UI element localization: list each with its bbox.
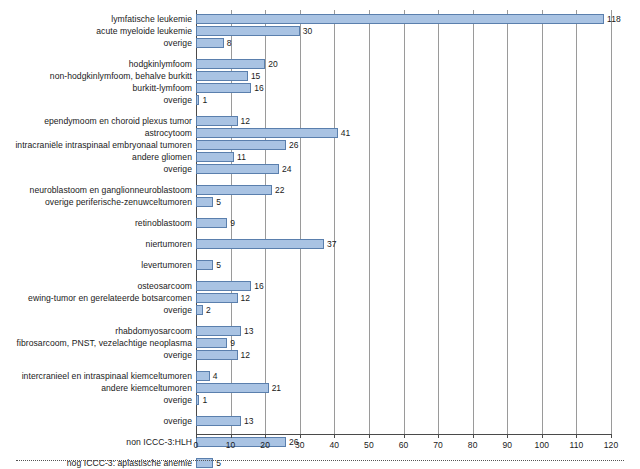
bar-category-label: overige xyxy=(163,95,192,105)
x-tick-20 xyxy=(265,434,266,438)
x-tick-120 xyxy=(611,434,612,438)
x-tick-label-90: 90 xyxy=(502,440,512,450)
bar[interactable] xyxy=(196,164,279,174)
x-tick-90 xyxy=(507,434,508,438)
bar-row[interactable]: overige2 xyxy=(196,305,611,315)
bar-row[interactable]: osteosarcoom16 xyxy=(196,281,611,291)
bar[interactable] xyxy=(196,26,300,36)
bar[interactable] xyxy=(196,305,203,315)
bar-row[interactable]: overige12 xyxy=(196,350,611,360)
bar[interactable] xyxy=(196,416,241,426)
bar[interactable] xyxy=(196,371,210,381)
bar-category-label: intercranieel en intraspinaal kiemceltum… xyxy=(22,371,192,381)
bar-value-label: 21 xyxy=(272,383,281,393)
bar-row[interactable]: overige periferische-zenuwceltumoren5 xyxy=(196,197,611,207)
bar-row[interactable]: overige24 xyxy=(196,164,611,174)
bar-row[interactable]: ependymoom en choroid plexus tumor12 xyxy=(196,116,611,126)
bar-category-label: neuroblastoom en ganglionneuroblastoom xyxy=(30,185,192,195)
bar-row[interactable]: lymfatische leukemie118 xyxy=(196,14,611,24)
bar-category-label: overige xyxy=(163,395,192,405)
bar[interactable] xyxy=(196,281,251,291)
bar-category-label: overige xyxy=(163,164,192,174)
bar-row[interactable]: retinoblastoom9 xyxy=(196,218,611,228)
bar-row[interactable]: burkitt-lymfoom16 xyxy=(196,83,611,93)
bar[interactable] xyxy=(196,83,251,93)
bar-row[interactable]: intracraniële intraspinaal embryonaal tu… xyxy=(196,140,611,150)
bar[interactable] xyxy=(196,350,238,360)
bar-value-label: 12 xyxy=(241,350,250,360)
x-tick-label-60: 60 xyxy=(399,440,409,450)
bar-value-label: 24 xyxy=(282,164,291,174)
bar-row[interactable]: acute myeloide leukemie30 xyxy=(196,26,611,36)
bar-category-label: acute myeloide leukemie xyxy=(96,26,192,36)
x-tick-label-10: 10 xyxy=(226,440,236,450)
x-tick-50 xyxy=(369,434,370,438)
bar-row[interactable]: overige13 xyxy=(196,416,611,426)
bar-value-label: 16 xyxy=(254,83,263,93)
bar[interactable] xyxy=(196,38,224,48)
bar[interactable] xyxy=(196,437,286,447)
bar-value-label: 1 xyxy=(202,395,207,405)
bar[interactable] xyxy=(196,260,213,270)
bar-row[interactable]: overige8 xyxy=(196,38,611,48)
bar-row[interactable]: fibrosarcoom, PNST, vezelachtige neoplas… xyxy=(196,338,611,348)
bar-category-label: andere gliomen xyxy=(132,152,192,162)
bar[interactable] xyxy=(196,116,238,126)
x-tick-label-120: 120 xyxy=(604,440,618,450)
bar-category-label: intracraniële intraspinaal embryonaal tu… xyxy=(15,140,192,150)
bar[interactable] xyxy=(196,326,241,336)
bar-category-label: overige periferische-zenuwceltumoren xyxy=(45,197,192,207)
x-tick-label-40: 40 xyxy=(330,440,340,450)
bar-value-label: 15 xyxy=(251,71,260,81)
bar-category-label: ewing-tumor en gerelateerde botsarcomen xyxy=(28,293,192,303)
bar[interactable] xyxy=(196,95,199,105)
bar-category-label: non-hodgkinlymfoom, behalve burkitt xyxy=(50,71,192,81)
bar[interactable] xyxy=(196,185,272,195)
bar-value-label: 13 xyxy=(244,416,253,426)
bar-category-label: niertumoren xyxy=(146,239,192,249)
bar-row[interactable]: andere gliomen11 xyxy=(196,152,611,162)
bar-row[interactable]: levertumoren5 xyxy=(196,260,611,270)
bar-row[interactable]: overige1 xyxy=(196,395,611,405)
bar-value-label: 118 xyxy=(607,14,621,24)
gridline-120 xyxy=(611,10,612,434)
chart-page: lymfatische leukemie118acute myeloide le… xyxy=(0,0,640,469)
bar-category-label: overige xyxy=(163,350,192,360)
bar-row[interactable]: overige1 xyxy=(196,95,611,105)
bar-category-label: astrocytoom xyxy=(145,128,192,138)
bar[interactable] xyxy=(196,239,324,249)
bar-row[interactable]: intercranieel en intraspinaal kiemceltum… xyxy=(196,371,611,381)
bar-row[interactable]: hodgkinlymfoom20 xyxy=(196,59,611,69)
x-tick-label-70: 70 xyxy=(433,440,443,450)
x-tick-label-110: 110 xyxy=(569,440,583,450)
bar[interactable] xyxy=(196,128,338,138)
bar-value-label: 30 xyxy=(303,26,312,36)
bar[interactable] xyxy=(196,152,234,162)
bar[interactable] xyxy=(196,383,269,393)
bar[interactable] xyxy=(196,197,213,207)
bar-category-label: andere kiemceltumoren xyxy=(101,383,192,393)
bar[interactable] xyxy=(196,59,265,69)
bar-category-label: fibrosarcoom, PNST, vezelachtige neoplas… xyxy=(17,338,193,348)
bar-row[interactable]: andere kiemceltumoren21 xyxy=(196,383,611,393)
bar-value-label: 16 xyxy=(254,281,263,291)
bar-category-label: burkitt-lymfoom xyxy=(133,83,192,93)
bar-row[interactable]: niertumoren37 xyxy=(196,239,611,249)
x-tick-0 xyxy=(196,434,197,438)
bar-row[interactable]: ewing-tumor en gerelateerde botsarcomen1… xyxy=(196,293,611,303)
bar-category-label: levertumoren xyxy=(141,260,192,270)
bar-row[interactable]: astrocytoom41 xyxy=(196,128,611,138)
bar[interactable] xyxy=(196,14,604,24)
bar-row[interactable]: non-hodgkinlymfoom, behalve burkitt15 xyxy=(196,71,611,81)
bar[interactable] xyxy=(196,218,227,228)
bar[interactable] xyxy=(196,395,199,405)
bar[interactable] xyxy=(196,71,248,81)
bar-chart: lymfatische leukemie118acute myeloide le… xyxy=(0,0,640,450)
x-tick-label-100: 100 xyxy=(535,440,549,450)
bar[interactable] xyxy=(196,140,286,150)
bar-row[interactable]: neuroblastoom en ganglionneuroblastoom22 xyxy=(196,185,611,195)
bar-row[interactable]: rhabdomyosarcoom13 xyxy=(196,326,611,336)
bar[interactable] xyxy=(196,338,227,348)
bar-value-label: 22 xyxy=(275,185,284,195)
bar[interactable] xyxy=(196,293,238,303)
